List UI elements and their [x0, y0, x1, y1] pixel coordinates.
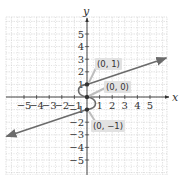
- y-tick-label: −2: [69, 117, 84, 128]
- x-tick-label: 5: [147, 100, 153, 111]
- y-axis-label: y: [82, 5, 90, 18]
- x-tick-label: 2: [109, 100, 115, 111]
- x-tick-label: 1: [96, 100, 102, 111]
- y-tick-label: −5: [69, 155, 84, 166]
- plot-area: xy−5−4−3−2−11234554321−1−2−3−4−5: [0, 0, 180, 175]
- label-point-0-neg1: (0, −1): [91, 120, 125, 132]
- data-point: [85, 95, 89, 99]
- x-tick-label: 4: [134, 100, 140, 111]
- x-tick-label: 3: [122, 100, 128, 111]
- leader-line: [89, 68, 96, 82]
- y-tick-label: 3: [78, 54, 84, 65]
- data-point: [85, 82, 89, 86]
- graph: xy−5−4−3−2−11234554321−1−2−3−4−5 (0, 1) …: [0, 0, 180, 175]
- leader-line: [89, 88, 105, 96]
- x-axis-label: x: [172, 91, 179, 104]
- y-tick-label: 2: [78, 66, 84, 77]
- y-tick-label: −4: [69, 142, 84, 153]
- y-tick-label: −3: [69, 129, 84, 140]
- y-tick-label: 4: [78, 41, 84, 52]
- label-point-0-1: (0, 1): [95, 58, 122, 70]
- data-point: [85, 107, 89, 111]
- y-tick-label: 5: [78, 29, 84, 40]
- label-point-0-0: (0, 0): [104, 81, 131, 93]
